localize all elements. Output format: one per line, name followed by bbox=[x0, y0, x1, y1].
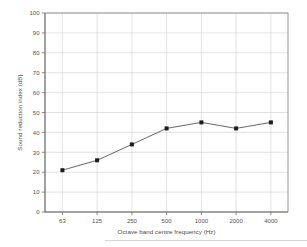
x-tick-labels: 63 125 250 500 1000 2000 4000 bbox=[59, 218, 278, 224]
x-tick-marks bbox=[62, 212, 271, 215]
y-tick-label: 50 bbox=[33, 110, 40, 116]
y-axis-title: Sound reduction index (dB) bbox=[16, 74, 23, 150]
data-point-2000hz bbox=[234, 126, 238, 130]
y-tick-label: 90 bbox=[33, 30, 40, 36]
y-tick-label: 60 bbox=[33, 90, 40, 96]
x-tick-label: 250 bbox=[127, 218, 138, 224]
y-tick-label: 40 bbox=[33, 130, 40, 136]
data-point-63hz bbox=[60, 168, 64, 172]
y-tick-label: 10 bbox=[33, 189, 40, 195]
y-tick-label: 30 bbox=[33, 150, 40, 156]
y-tick-label: 0 bbox=[36, 209, 40, 215]
data-point-125hz bbox=[95, 158, 99, 162]
data-point-500hz bbox=[165, 126, 169, 130]
y-tick-label: 70 bbox=[33, 70, 40, 76]
x-tick-label: 2000 bbox=[229, 218, 243, 224]
data-point-1000hz bbox=[199, 120, 203, 124]
x-tick-label: 125 bbox=[92, 218, 103, 224]
data-point-4000hz bbox=[269, 120, 273, 124]
y-tick-marks bbox=[42, 13, 45, 212]
chart-figure: 100 90 80 70 60 50 40 30 20 10 0 63 125 … bbox=[0, 0, 307, 247]
x-tick-label: 63 bbox=[59, 218, 66, 224]
y-tick-label: 20 bbox=[33, 169, 40, 175]
x-tick-label: 500 bbox=[162, 218, 173, 224]
x-tick-label: 4000 bbox=[264, 218, 278, 224]
y-tick-label: 100 bbox=[29, 10, 40, 16]
sound-reduction-index-line-chart: 100 90 80 70 60 50 40 30 20 10 0 63 125 … bbox=[0, 0, 307, 247]
y-tick-label: 80 bbox=[33, 50, 40, 56]
data-point-250hz bbox=[130, 142, 134, 146]
x-tick-label: 1000 bbox=[195, 218, 209, 224]
y-tick-labels: 100 90 80 70 60 50 40 30 20 10 0 bbox=[29, 10, 40, 215]
x-axis-title: Octave band centre frequency (Hz) bbox=[118, 228, 216, 235]
